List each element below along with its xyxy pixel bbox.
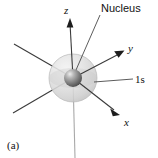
axis-z-arrowhead bbox=[67, 18, 74, 28]
axis-x-arrowhead bbox=[110, 108, 120, 116]
axis-y-arrowhead bbox=[114, 51, 124, 58]
nucleus-sphere bbox=[64, 69, 82, 87]
nucleus-label: Nucleus bbox=[101, 2, 141, 14]
orbital-leader-line bbox=[94, 79, 133, 82]
axis-y-label: y bbox=[127, 42, 133, 54]
axis-x-label: x bbox=[123, 116, 129, 128]
axis-z-label: z bbox=[63, 4, 69, 16]
diagram-canvas: Nucleus 1s z y x (a) bbox=[0, 0, 158, 158]
panel-label: (a) bbox=[7, 139, 20, 152]
orbital-diagram-figure: Nucleus 1s z y x (a) bbox=[0, 0, 158, 158]
orbital-label-1s: 1s bbox=[135, 73, 145, 85]
